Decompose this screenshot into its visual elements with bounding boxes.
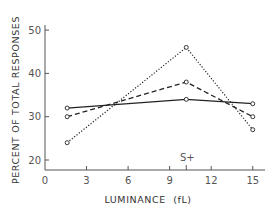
x-tick-label: 6 [125,175,131,186]
y-tick-label: 20 [28,155,41,166]
x-tick-label: 9 [166,175,172,186]
data-point-marker [251,115,255,119]
data-point-marker [251,128,255,132]
x-tick-label: 12 [205,175,218,186]
y-tick-label: 30 [28,111,41,122]
x-tick-label: 3 [83,175,89,186]
series-line [67,47,253,142]
data-point-marker [65,115,69,119]
annotations: S+ [180,152,195,170]
data-point-marker [184,97,188,101]
y-tick-label: 50 [28,25,41,36]
series-line [67,99,253,108]
series-dotted [65,45,255,144]
series-line [67,82,253,117]
y-tick-label: 40 [28,68,41,79]
data-point-marker [65,141,69,145]
data-point-marker [251,102,255,106]
x-tick-label: 0 [42,175,48,186]
splus-label: S+ [180,152,195,163]
x-tick-label: 15 [246,175,259,186]
x-axis: 03691215 [42,166,265,186]
data-point-marker [184,80,188,84]
y-axis: 20304050 [28,25,49,170]
series-solid [65,97,255,110]
data-point-marker [65,106,69,110]
series-dashed [65,80,255,119]
line-chart: 20304050 03691215 PERCENT OF TOTAL RESPO… [0,0,280,209]
y-axis-label: PERCENT OF TOTAL RESPONSES [10,16,21,184]
x-axis-label: LUMINANCE (fL) [104,194,191,205]
data-point-marker [184,45,188,49]
series-group [65,45,255,144]
